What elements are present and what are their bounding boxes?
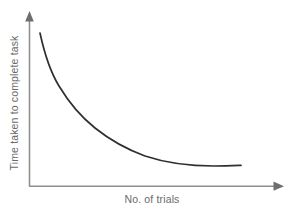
y-axis-arrowhead-icon [25, 11, 34, 22]
x-axis-arrowhead-icon [274, 182, 285, 191]
chart-canvas: No. of trials Time taken to complete tas… [0, 0, 295, 216]
x-axis-label: No. of trials [124, 193, 179, 205]
learning-curve-figure: No. of trials Time taken to complete tas… [0, 0, 295, 216]
y-axis-label: Time taken to complete task [8, 35, 20, 171]
learning-curve-path [40, 33, 241, 166]
